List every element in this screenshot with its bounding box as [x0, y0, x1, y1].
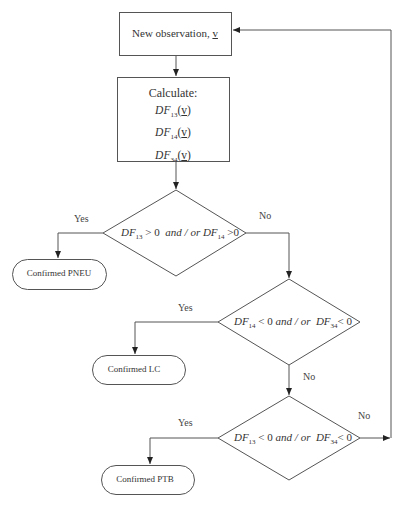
calculate-title: Calculate: [117, 84, 229, 102]
arrow-d3-yes [150, 438, 218, 464]
d2-yes-label: Yes [178, 302, 193, 313]
arrow-d1-no [246, 233, 289, 278]
start-var: v [212, 27, 218, 39]
start-label: New observation, v [119, 27, 231, 39]
d1-yes-label: Yes [74, 213, 89, 224]
calculate-content: Calculate: DF13(v) DF14(v) DF34(v) [117, 84, 229, 169]
outcome-ptb: Confirmed PTB [101, 474, 189, 484]
calc-df34: DF34(v) [117, 147, 229, 169]
arrow-d2-yes [135, 322, 218, 354]
start-text: New observation, [132, 27, 212, 39]
decision1-condition: DF13 > 0 and / or DF14 >0 [110, 226, 250, 241]
outcome-pneu: Confirmed PNEU [12, 268, 106, 278]
calc-df13: DF13(v) [117, 102, 229, 124]
d2-no-label: No [303, 371, 315, 382]
decision2-condition: DF14 < 0 and / or DF34< 0 [222, 315, 364, 330]
calc-df14: DF14(v) [117, 124, 229, 146]
arrow-d1-yes [58, 233, 103, 258]
decision3-condition: DF13 < 0 and / or DF34< 0 [222, 431, 364, 446]
d1-no-label: No [259, 210, 271, 221]
d3-no-label: No [358, 410, 370, 421]
outcome-lc: Confirmed LC [92, 364, 176, 374]
d3-yes-label: Yes [178, 417, 193, 428]
